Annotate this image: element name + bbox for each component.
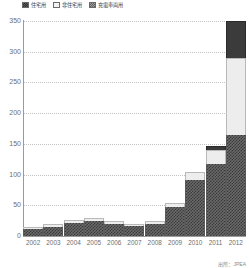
y-axis-tick: 100	[0, 171, 21, 178]
bar-column[interactable]	[43, 21, 63, 236]
bar-column[interactable]	[64, 21, 84, 236]
x-axis-tick: 2005	[84, 238, 104, 250]
y-axis-tick: 200	[0, 109, 21, 116]
y-axis-tick: 0	[0, 232, 21, 239]
ev-charging-swatch-icon	[89, 2, 96, 8]
bar-column[interactable]	[185, 21, 205, 236]
residential-swatch-icon	[22, 2, 29, 8]
non-residential-swatch-icon	[53, 2, 60, 8]
x-axis-tick: 2006	[104, 238, 124, 250]
bar-segment-non-residential	[185, 172, 205, 180]
y-axis-tick-labels: 350300250200150100500	[0, 0, 21, 268]
x-axis-tick: 2010	[185, 238, 205, 250]
legend-item-residential[interactable]: 住宅用	[22, 2, 46, 8]
x-axis-tick: 2009	[165, 238, 185, 250]
bar-segment-residential	[226, 135, 246, 236]
y-axis-tick: 250	[0, 78, 21, 85]
bar-column[interactable]	[165, 21, 185, 236]
legend-label-residential: 住宅用	[31, 2, 46, 8]
legend-label-non-residential: 非住宅用	[62, 2, 82, 8]
bar-segment-ev-charging	[226, 21, 246, 58]
bar-series-container	[23, 21, 246, 236]
stacked-bar-chart: 住宅用 非住宅用 充電車両用 350300250200150100500 200…	[0, 0, 249, 268]
legend-item-non-residential[interactable]: 非住宅用	[53, 2, 82, 8]
chart-legend: 住宅用 非住宅用 充電車両用	[22, 0, 123, 9]
x-axis-tick: 2002	[23, 238, 43, 250]
x-axis-tick-labels: 2002200320042005200620072008200920102011…	[23, 238, 246, 250]
bar-segment-residential	[23, 229, 43, 236]
x-axis-line	[23, 236, 246, 237]
source-note: 出所：JPEA	[218, 260, 246, 267]
x-axis-tick: 2011	[206, 238, 226, 250]
bar-segment-non-residential	[206, 150, 226, 164]
y-axis-tick: 350	[0, 17, 21, 24]
bar-segment-residential	[64, 223, 84, 236]
x-axis-tick: 2004	[64, 238, 84, 250]
y-axis-tick: 50	[0, 201, 21, 208]
x-axis-tick: 2003	[43, 238, 63, 250]
bar-segment-residential	[124, 226, 144, 236]
bar-column[interactable]	[104, 21, 124, 236]
bar-segment-non-residential	[226, 58, 246, 135]
legend-item-ev-charging[interactable]: 充電車両用	[89, 2, 123, 8]
x-axis-tick: 2012	[226, 238, 246, 250]
bar-segment-residential	[84, 221, 104, 236]
bar-segment-residential	[145, 224, 165, 236]
bar-segment-residential	[185, 180, 205, 237]
bar-column[interactable]	[226, 21, 246, 236]
y-axis-tick: 150	[0, 140, 21, 147]
legend-label-ev-charging: 充電車両用	[98, 2, 123, 8]
bar-segment-residential	[104, 224, 124, 236]
x-axis-tick: 2007	[124, 238, 144, 250]
bar-column[interactable]	[206, 21, 226, 236]
bar-column[interactable]	[145, 21, 165, 236]
bar-column[interactable]	[124, 21, 144, 236]
bar-segment-residential	[206, 164, 226, 236]
x-axis-tick: 2008	[145, 238, 165, 250]
bar-column[interactable]	[84, 21, 104, 236]
bar-column[interactable]	[23, 21, 43, 236]
bar-segment-residential	[165, 207, 185, 236]
bar-segment-residential	[43, 227, 63, 236]
y-axis-tick: 300	[0, 48, 21, 55]
